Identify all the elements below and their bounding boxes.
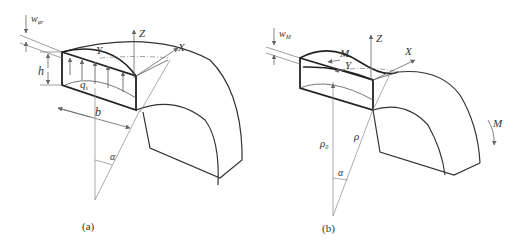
label-m-top: M: [339, 47, 350, 59]
panel-b: wM M Y Z X M ρ0 ρ α (b): [266, 28, 503, 235]
label-alpha: α: [338, 167, 344, 178]
inner-arc: [373, 107, 445, 175]
label-x-axis: X: [404, 45, 413, 57]
label-w-m: wM: [279, 28, 292, 40]
side-face: [373, 110, 480, 175]
label-z-axis: Z: [139, 27, 146, 39]
caption-a: (a): [82, 220, 95, 233]
caption-b: (b): [322, 222, 335, 235]
label-alpha: α: [110, 151, 116, 162]
label-m-right: M: [492, 117, 503, 129]
label-x-axis: X: [177, 41, 186, 53]
label-rho0: ρ0: [319, 137, 328, 150]
outer-arc: [62, 42, 242, 150]
label-z-axis: Z: [376, 32, 383, 44]
label-h: h: [38, 64, 44, 78]
label-rho: ρ: [353, 130, 359, 142]
label-w-phi: wφr: [31, 13, 44, 25]
side-face: [143, 112, 242, 178]
label-q: qs: [80, 78, 89, 91]
label-b: b: [95, 105, 101, 119]
cross-section: [62, 52, 136, 110]
figure-canvas: wφr h qs b Y Z X α (a): [0, 0, 518, 249]
inner-arc: [136, 104, 218, 185]
panel-a: wφr h qs b Y Z X α (a): [20, 13, 242, 233]
label-y-axis: Y: [96, 44, 104, 56]
